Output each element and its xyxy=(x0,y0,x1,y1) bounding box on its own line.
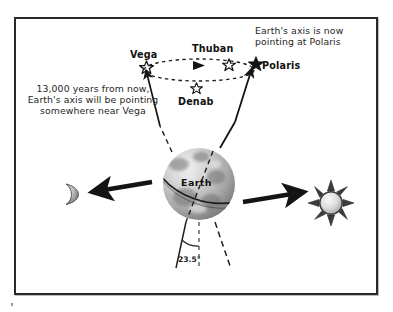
denab-star-icon xyxy=(190,82,203,95)
earth-label: Earth xyxy=(181,177,212,188)
sun-icon xyxy=(308,180,354,226)
scan-speck xyxy=(11,303,13,306)
polaris-annotation: Earth's axis is now pointing at Polaris xyxy=(255,26,343,48)
vega-label: Vega xyxy=(130,49,158,60)
axial-tilt-label: 23.5° xyxy=(178,256,201,265)
moon-icon xyxy=(62,183,82,205)
polaris-label: Polaris xyxy=(262,60,301,71)
vega-annotation: 13,000 years from now, Earth's axis will… xyxy=(18,84,168,117)
vega-star-icon xyxy=(139,60,154,75)
thuban-star-icon xyxy=(222,58,236,72)
figure-canvas: Earth's axis is now pointing at Polaris … xyxy=(0,0,393,312)
thuban-label: Thuban xyxy=(192,43,234,54)
denab-label: Denab xyxy=(178,96,214,107)
